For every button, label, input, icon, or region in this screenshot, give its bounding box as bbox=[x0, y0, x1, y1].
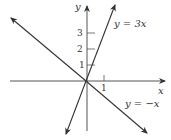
y-axis-label: y bbox=[74, 1, 81, 12]
line-y-equals-neg-x-upper bbox=[11, 18, 86, 81]
y-tick-label-3: 3 bbox=[77, 28, 83, 38]
line-y-equals-3x bbox=[86, 5, 115, 81]
graph-figure: y x 3 2 1 1 y = 3x y = −x bbox=[0, 0, 171, 140]
y-tick-label-1: 1 bbox=[79, 60, 85, 70]
x-tick-label-1: 1 bbox=[101, 83, 107, 93]
line-label-y-equals-3x: y = 3x bbox=[113, 18, 147, 29]
line-label-y-equals-neg-x: y = −x bbox=[124, 98, 160, 109]
coordinate-plane: y x 3 2 1 1 y = 3x y = −x bbox=[0, 0, 171, 140]
line-y-equals-3x-lower bbox=[66, 81, 86, 134]
y-tick-label-2: 2 bbox=[77, 44, 83, 54]
x-axis-label: x bbox=[158, 85, 164, 96]
